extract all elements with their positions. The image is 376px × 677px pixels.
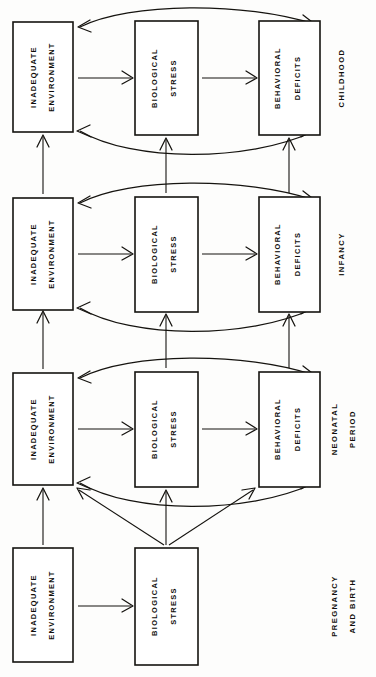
arrowhead-childhood-top-left — [78, 20, 91, 32]
flow-diagram: INADEQUATE ENVIRONMENT BIOLOGICAL STRESS… — [0, 0, 376, 677]
box-label-neonatal-deficits-line2: DEFICITS — [293, 407, 302, 451]
arrow-pregnancy-stress-to-neonatal-deficits — [169, 490, 253, 545]
stage-label-neonatal-line1: NEONATAL — [330, 403, 339, 456]
stage-label-childhood: CHILDHOOD — [337, 48, 346, 107]
stage-group-pregnancy: INADEQUATE ENVIRONMENT BIOLOGICAL STRESS… — [13, 488, 357, 665]
box-label-infancy-stress-line2: STRESS — [169, 235, 178, 273]
box-infancy-deficits[interactable] — [259, 197, 320, 312]
box-childhood-environment[interactable] — [13, 22, 73, 132]
box-label-childhood-deficits-line1: BEHAVIORAL — [273, 47, 282, 109]
box-label-pregnancy-environment-line1: INADEQUATE — [29, 574, 38, 636]
box-label-neonatal-stress-line1: BIOLOGICAL — [150, 399, 159, 459]
box-label-pregnancy-environment-line2: ENVIRONMENT — [47, 570, 56, 639]
box-label-childhood-environment-line1: INADEQUATE — [29, 46, 38, 108]
box-label-childhood-stress-line1: BIOLOGICAL — [150, 48, 159, 108]
box-label-neonatal-deficits-line1: BEHAVIORAL — [273, 398, 282, 460]
box-neonatal-stress[interactable] — [135, 372, 198, 487]
stage-label-infancy: INFANCY — [337, 232, 346, 275]
box-label-infancy-environment-line2: ENVIRONMENT — [47, 219, 56, 288]
box-label-infancy-deficits-line2: DEFICITS — [293, 232, 302, 276]
stage-label-pregnancy-line1: PREGNANCY — [330, 575, 339, 637]
box-label-infancy-stress-line1: BIOLOGICAL — [150, 224, 159, 284]
box-label-neonatal-environment-line1: INADEQUATE — [29, 398, 38, 460]
box-infancy-environment[interactable] — [13, 198, 73, 310]
stage-group-neonatal: INADEQUATE ENVIRONMENT BIOLOGICAL STRESS… — [13, 311, 357, 506]
box-pregnancy-environment[interactable] — [13, 548, 73, 662]
box-childhood-deficits[interactable] — [259, 21, 320, 135]
stage-group-childhood: INADEQUATE ENVIRONMENT BIOLOGICAL STRESS… — [13, 8, 346, 155]
box-childhood-stress[interactable] — [135, 21, 198, 135]
box-label-neonatal-environment-line2: ENVIRONMENT — [47, 394, 56, 463]
box-pregnancy-stress[interactable] — [135, 548, 198, 665]
box-label-childhood-environment-line2: ENVIRONMENT — [47, 42, 56, 111]
box-label-pregnancy-stress-line1: BIOLOGICAL — [150, 576, 159, 636]
box-label-infancy-deficits-line1: BEHAVIORAL — [273, 223, 282, 285]
arrowhead-neonatal-top-left — [78, 371, 91, 383]
figure-canvas: INADEQUATE ENVIRONMENT BIOLOGICAL STRESS… — [0, 0, 376, 677]
box-label-childhood-deficits-line2: DEFICITS — [293, 56, 302, 100]
box-label-neonatal-stress-line2: STRESS — [169, 410, 178, 448]
box-label-infancy-environment-line1: INADEQUATE — [29, 223, 38, 285]
stage-label-pregnancy-line2: AND BIRTH — [348, 579, 357, 634]
box-neonatal-deficits[interactable] — [259, 372, 320, 487]
box-label-childhood-stress-line2: STRESS — [169, 59, 178, 97]
box-label-pregnancy-stress-line2: STRESS — [169, 587, 178, 625]
box-neonatal-environment[interactable] — [13, 373, 73, 485]
arrowhead-infancy-top-left — [78, 196, 91, 208]
stage-label-neonatal-line2: PERIOD — [348, 410, 357, 448]
stage-group-infancy: INADEQUATE ENVIRONMENT BIOLOGICAL STRESS… — [13, 135, 346, 331]
box-infancy-stress[interactable] — [135, 197, 198, 312]
